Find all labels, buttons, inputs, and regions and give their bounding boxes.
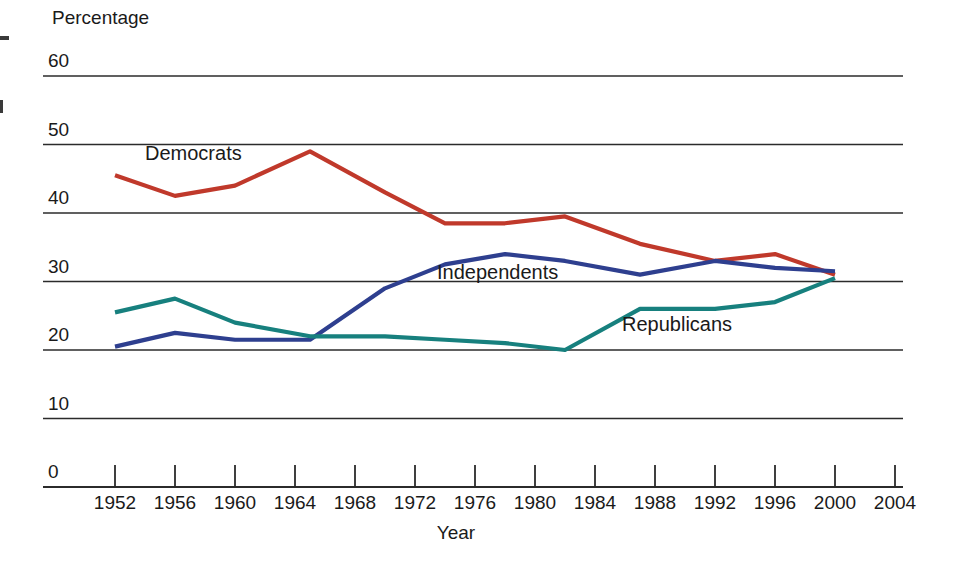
y-axis-tick-label: 20 [48, 324, 69, 345]
x-axis-tick-label: 1992 [694, 492, 736, 513]
y-axis-tick-label: 60 [48, 50, 69, 71]
y-axis-tick-label: 10 [48, 393, 69, 414]
x-axis-tick-label: 1956 [154, 492, 196, 513]
x-axis-tick-labels: 1952195619601964196819721976198019841988… [94, 492, 917, 513]
x-axis-tick-label: 1968 [334, 492, 376, 513]
y-axis-tick-label: 40 [48, 187, 69, 208]
x-axis-tick-label: 1960 [214, 492, 256, 513]
y-axis-tick-label: 30 [48, 256, 69, 277]
line-chart: Percentage 0102030405060 195219561960196… [0, 0, 959, 585]
y-axis-tick-label: 50 [48, 119, 69, 140]
x-axis-tick-label: 2000 [814, 492, 856, 513]
series-label-independents: Independents [437, 261, 558, 283]
series-inline-labels: DemocratsIndependentsRepublicans [145, 142, 732, 335]
x-axis-tick-label: 1988 [634, 492, 676, 513]
x-axis-tick-label: 1964 [274, 492, 317, 513]
y-axis-title: Percentage [52, 7, 149, 28]
x-axis-tick-marks [115, 465, 895, 487]
x-axis-tick-label: 2004 [874, 492, 917, 513]
x-axis-title: Year [437, 522, 476, 543]
x-axis-tick-label: 1996 [754, 492, 796, 513]
x-axis-tick-label: 1980 [514, 492, 556, 513]
y-axis-tick-label: 0 [48, 461, 59, 482]
x-axis-tick-label: 1952 [94, 492, 136, 513]
y-axis-tick-labels: 0102030405060 [48, 50, 69, 482]
x-axis-tick-label: 1984 [574, 492, 617, 513]
x-axis-tick-label: 1976 [454, 492, 496, 513]
chart-screenshot: Percentage 0102030405060 195219561960196… [0, 0, 959, 585]
series-label-democrats: Democrats [145, 142, 242, 164]
x-axis-tick-label: 1972 [394, 492, 436, 513]
series-label-republicans: Republicans [622, 313, 732, 335]
